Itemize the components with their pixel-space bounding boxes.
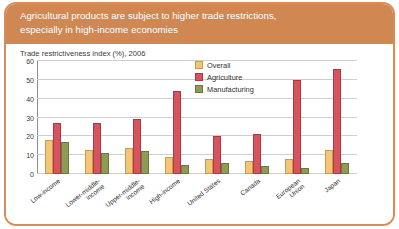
bar-agriculture	[53, 123, 61, 174]
figure-title-line-1: Agricultural products are subject to hig…	[20, 9, 379, 23]
legend-label-manufacturing: Manufacturing	[207, 85, 254, 94]
bar-overall	[325, 150, 333, 174]
bar-overall	[85, 150, 93, 174]
bar-manufacturing	[61, 142, 69, 174]
legend-swatch-icon-agriculture	[195, 73, 203, 81]
legend-label-overall: Overall	[207, 61, 230, 70]
bar-group	[157, 61, 197, 174]
bar-agriculture	[93, 123, 101, 174]
x-tick-label: Canada	[239, 177, 262, 197]
x-tick-label: Japan	[323, 177, 342, 194]
bar-manufacturing	[141, 151, 149, 174]
figure-title-band: Agricultural products are subject to hig…	[6, 4, 393, 44]
y-tick-label: 40	[26, 95, 34, 102]
bar-overall	[125, 148, 133, 174]
bar-overall	[285, 159, 293, 174]
bar-agriculture	[333, 69, 341, 174]
legend-swatch-icon-manufacturing	[195, 85, 203, 93]
x-label-slot: Japan	[317, 175, 357, 219]
bar-manufacturing	[341, 163, 349, 174]
legend-item-manufacturing: Manufacturing	[195, 83, 295, 95]
legend-label-agriculture: Agriculture	[207, 73, 242, 82]
x-tick-label: European Union	[274, 177, 306, 206]
figure-title-line-2: especially in high-income economies	[20, 23, 379, 37]
bar-agriculture	[213, 136, 221, 174]
bar-overall	[205, 159, 213, 174]
legend-swatch-icon-overall	[195, 61, 203, 69]
legend-item-agriculture: Agriculture	[195, 71, 295, 83]
x-label-slot: Canada	[237, 175, 277, 219]
bar-group	[37, 61, 77, 174]
x-axis-labels: Low-incomeLower-middle- incomeUpper-midd…	[37, 175, 357, 219]
bar-group	[317, 61, 357, 174]
figure-container: Agricultural products are subject to hig…	[0, 0, 399, 229]
x-label-slot: United States	[197, 175, 237, 219]
chart-body: Trade restrictiveness index (%), 2006 01…	[6, 44, 393, 226]
bar-group	[117, 61, 157, 174]
bar-manufacturing	[301, 168, 309, 174]
bar-manufacturing	[261, 166, 269, 174]
chart-legend: Overall Agriculture Manufacturing	[195, 59, 295, 95]
y-tick-label: 50	[26, 76, 34, 83]
y-tick-label: 20	[26, 133, 34, 140]
bar-group	[77, 61, 117, 174]
x-tick-label: Low-income	[29, 177, 62, 205]
bar-manufacturing	[101, 153, 109, 174]
bar-overall	[45, 140, 53, 174]
bar-manufacturing	[181, 165, 189, 174]
legend-item-overall: Overall	[195, 59, 295, 71]
bar-agriculture	[133, 119, 141, 174]
bar-agriculture	[173, 91, 181, 174]
bar-overall	[245, 161, 253, 174]
y-tick-label: 60	[26, 58, 34, 65]
bar-overall	[165, 157, 173, 174]
bar-agriculture	[253, 134, 261, 174]
x-label-slot: European Union	[277, 175, 317, 219]
y-tick-label: 30	[26, 114, 34, 121]
y-tick-label: 0	[30, 171, 34, 178]
figure-frame: Agricultural products are subject to hig…	[4, 2, 395, 226]
chart-subtitle: Trade restrictiveness index (%), 2006	[20, 49, 146, 58]
y-tick-label: 10	[26, 152, 34, 159]
bar-manufacturing	[221, 163, 229, 174]
